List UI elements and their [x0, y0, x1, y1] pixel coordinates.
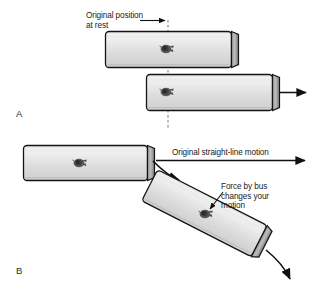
physics-figure: Original positionat rest Original straig… — [0, 0, 312, 289]
bus-a-top — [106, 32, 239, 68]
bus-b-straight — [24, 146, 155, 181]
panel-letter-a: A — [16, 108, 23, 119]
bus-a-bottom — [147, 75, 280, 111]
label-force-line2: changes your — [221, 192, 269, 201]
bus-endcap — [232, 32, 239, 68]
label-original-position: Original positionat rest — [86, 11, 143, 30]
label-straight-line-motion-text: Original straight-line motion — [172, 148, 269, 157]
label-straight-line-motion: Original straight-line motion — [172, 148, 269, 158]
panel-letter-b: B — [16, 265, 23, 276]
label-original-position-line1: Original position — [86, 11, 143, 20]
label-original-position-line2: at rest — [86, 21, 108, 30]
figure-canvas — [0, 0, 312, 289]
label-force-line3: motion — [221, 201, 245, 210]
bus-endcap — [148, 146, 155, 181]
label-force-line1: Force by bus — [221, 182, 267, 191]
bus-endcap — [273, 75, 280, 111]
curved-turn-arrow-bottom — [266, 250, 290, 279]
label-force-by-bus: Force by buschanges yourmotion — [221, 182, 269, 211]
